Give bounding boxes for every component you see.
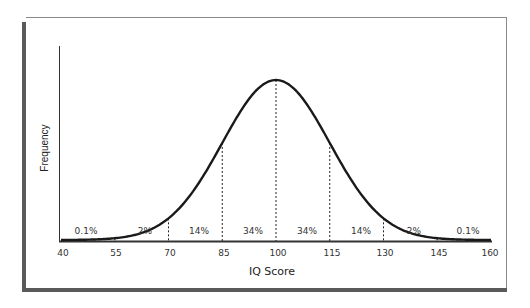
x-tick-label: 100	[269, 248, 286, 258]
x-tick-label: 115	[323, 248, 340, 258]
y-axis-title: Frequency	[39, 124, 50, 171]
x-axis-title: IQ Score	[249, 265, 295, 278]
region-label: 2%	[138, 226, 153, 236]
x-tick-label: 70	[164, 248, 176, 258]
x-tick-label: 85	[218, 248, 229, 258]
x-tick-labels: 40 55 70 85 100 115 130 145 160	[57, 248, 499, 258]
region-label: 0.1%	[75, 226, 98, 236]
bell-curve-chart: 0.1% 2% 14% 34% 34% 14% 2% 0.1% 40 55 70…	[0, 0, 530, 308]
region-label: 34%	[243, 226, 263, 236]
normal-curve	[61, 80, 491, 240]
x-tick-label: 55	[110, 248, 121, 258]
region-label: 34%	[297, 226, 317, 236]
x-tick-label: 160	[481, 248, 498, 258]
x-tick-label: 130	[376, 248, 393, 258]
region-label: 14%	[189, 226, 209, 236]
sd-dividers	[115, 80, 438, 241]
region-label: 2%	[407, 226, 422, 236]
region-label: 14%	[351, 226, 371, 236]
region-label: 0.1%	[457, 226, 480, 236]
x-tick-label: 40	[57, 248, 69, 258]
x-tick-label: 145	[430, 248, 447, 258]
